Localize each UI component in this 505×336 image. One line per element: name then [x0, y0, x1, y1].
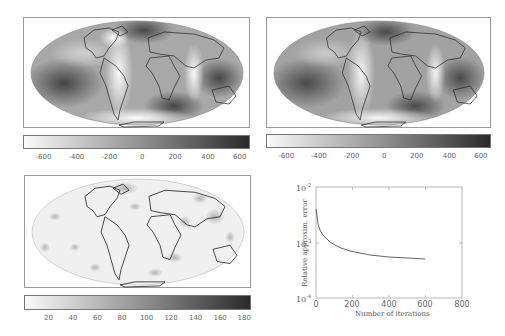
ytick-label: 10-4 — [296, 293, 311, 304]
xtick-label: 800 — [454, 300, 469, 309]
xtick-label: 0 — [313, 300, 318, 309]
x-axis-label: Number of iterations — [355, 310, 430, 318]
xtick-label: 600 — [417, 300, 432, 309]
y-axis-label: Relative approxim. error — [301, 199, 309, 287]
convergence-plot — [0, 0, 505, 336]
xtick-label: 200 — [344, 300, 359, 309]
ytick-label: 10-2 — [296, 182, 311, 193]
xtick-label: 400 — [381, 300, 396, 309]
